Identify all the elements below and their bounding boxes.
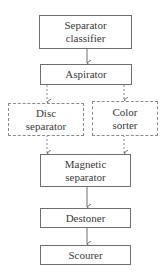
node-label: Destoner [66, 212, 106, 225]
node-separator-classifier: Separator classifier [39, 15, 132, 49]
node-scourer: Scourer [40, 245, 131, 265]
node-destoner: Destoner [40, 208, 131, 228]
node-label-line: separator [65, 171, 107, 184]
node-label: Aspirator [65, 68, 107, 81]
node-disc-separator: Disc separator [8, 103, 84, 136]
node-label-line: Color [112, 106, 137, 119]
node-aspirator: Aspirator [40, 64, 132, 85]
node-label-line: classifier [64, 32, 106, 45]
node-label: Scourer [68, 249, 102, 262]
node-label-line: Magnetic [65, 158, 107, 171]
node-magnetic-separator: Magnetic separator [40, 154, 131, 187]
node-label-line: sorter [112, 119, 137, 132]
node-label-line: separator [26, 120, 66, 133]
node-label-line: Separator [64, 19, 106, 32]
node-color-sorter: Color sorter [92, 101, 158, 136]
node-label-line: Disc [26, 107, 66, 120]
